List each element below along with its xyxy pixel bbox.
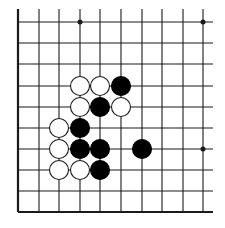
black-stone — [71, 119, 90, 138]
white-stone — [71, 77, 90, 96]
white-stone — [91, 77, 110, 96]
star-point — [201, 147, 206, 152]
black-stone — [91, 98, 110, 117]
star-point — [78, 20, 83, 25]
black-stone — [91, 161, 110, 180]
black-stone — [71, 140, 90, 159]
white-stone — [71, 161, 90, 180]
white-stone — [112, 98, 131, 117]
black-stone — [133, 140, 152, 159]
white-stone — [71, 98, 90, 117]
white-stone — [50, 119, 69, 138]
black-stone — [91, 140, 110, 159]
black-stone — [112, 77, 131, 96]
white-stone — [50, 140, 69, 159]
go-board — [0, 0, 225, 228]
white-stone — [50, 161, 69, 180]
star-point — [201, 20, 206, 25]
